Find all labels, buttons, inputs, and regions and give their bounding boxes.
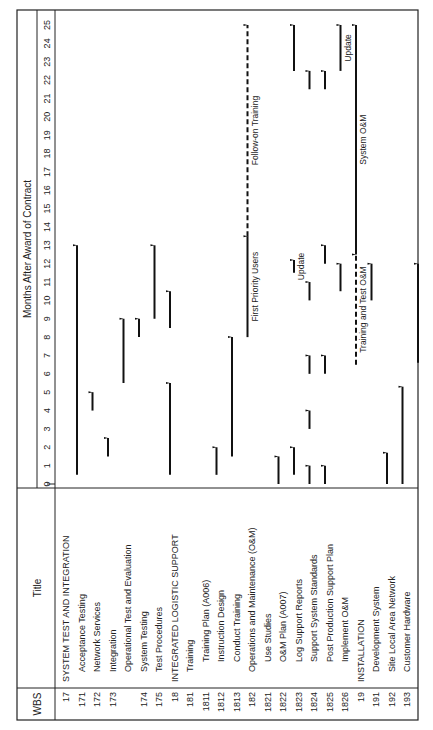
tick-label: 6 [42, 371, 52, 376]
row-wbs: 1823 [294, 692, 304, 712]
row-title: Training [185, 640, 195, 672]
tick-label: 21 [42, 93, 52, 103]
row-wbs: 18 [170, 692, 180, 702]
row-title: Training Plan (A006) [201, 580, 211, 662]
tick-label: 9 [42, 316, 52, 321]
bar-annotation: Update [296, 252, 306, 280]
task-bars: First Priority UsersFollow-on TrainingUp… [73, 24, 418, 484]
tick-label: 5 [42, 390, 52, 395]
row-title: Integration [108, 629, 118, 672]
row-title: Log Support Reports [294, 578, 304, 662]
row-title: Use Studies [263, 613, 273, 662]
tick-label: 22 [42, 75, 52, 85]
row-title: System Testing [139, 611, 149, 672]
task-rows: 17SYSTEM TEST AND INTEGRATION171Acceptan… [61, 527, 412, 712]
row-wbs: 173 [108, 692, 118, 707]
row-wbs: 1826 [340, 692, 350, 712]
tick-label: 16 [42, 185, 52, 195]
row-title: Network Services [92, 601, 102, 672]
row-title: Acceptance Testing [77, 594, 87, 672]
row-title: Conduct Training [232, 594, 242, 662]
tick-label: 2 [42, 445, 52, 450]
tick-label: 20 [42, 112, 52, 122]
tick-label: 23 [42, 57, 52, 67]
row-title: Site Local Area Network [387, 575, 397, 672]
tick-label: 3 [42, 426, 52, 431]
row-title: Operations and Maintenance (O&M) [247, 527, 257, 672]
bar-annotation: Update [343, 34, 353, 62]
row-title: Test Procedures [154, 606, 164, 672]
wbs-header: WBS [32, 692, 43, 715]
row-wbs: 1813 [232, 692, 242, 712]
row-title: INTEGRATED LOGISTIC SUPPORT [170, 534, 180, 682]
row-wbs: 171 [77, 692, 87, 707]
tick-label: 15 [42, 204, 52, 214]
tick-label: 17 [42, 167, 52, 177]
tick-label: 4 [42, 408, 52, 413]
row-title: SYSTEM TEST AND INTEGRATION [61, 535, 71, 682]
tick-label: 18 [42, 149, 52, 159]
row-wbs: 1821 [263, 692, 273, 712]
tick-label: 8 [42, 335, 52, 340]
axis-label: Months After Award of Contract [22, 180, 33, 318]
bar-annotation: Training and Test O&M [358, 266, 368, 352]
tick-label: 14 [42, 222, 52, 232]
row-wbs: 181 [185, 692, 195, 707]
tick-label: 7 [42, 353, 52, 358]
bar-annotation: Follow-on Training [250, 96, 260, 166]
row-wbs: 174 [139, 692, 149, 707]
row-wbs: 192 [387, 692, 397, 707]
gantt-chart: WBS Title Months After Award of Contract… [0, 0, 433, 730]
row-title: Instruction Design [216, 590, 226, 662]
row-wbs: 19 [356, 692, 366, 702]
row-wbs: 1824 [309, 692, 319, 712]
row-title: Customer Hardware [402, 591, 412, 672]
row-wbs: 175 [154, 692, 164, 707]
row-wbs: 1811 [201, 692, 211, 711]
row-wbs: 182 [247, 692, 257, 707]
tick-label: 10 [42, 295, 52, 305]
row-title: INSTALLATION [356, 619, 366, 682]
row-title: Operational Test and Evaluation [123, 545, 133, 672]
row-title: Development System [371, 586, 381, 672]
row-title: Implement O&M [340, 597, 350, 662]
row-title: O&M Plan (A007) [278, 591, 288, 662]
row-wbs: 1822 [278, 692, 288, 712]
tick-label: 13 [42, 240, 52, 250]
month-ticks: 0123456789101112131415161718192021222324… [42, 20, 55, 487]
tick-label: 19 [42, 130, 52, 140]
bar-annotation: System O&M [358, 115, 368, 165]
row-title: Support System Standards [309, 554, 319, 662]
tick-label: 25 [42, 20, 52, 30]
row-wbs: 191 [371, 692, 381, 707]
row-title: Post Production Support Plan [325, 544, 335, 662]
row-wbs: 1812 [216, 692, 226, 712]
tick-label: 12 [42, 259, 52, 269]
row-wbs: 17 [61, 692, 71, 702]
tick-label: 24 [42, 38, 52, 48]
bar-annotation: First Priority Users [250, 252, 260, 322]
tick-label: 11 [42, 277, 52, 286]
row-wbs: 172 [92, 692, 102, 707]
row-wbs: 193 [402, 692, 412, 707]
tick-label: 1 [42, 463, 52, 468]
row-wbs: 1825 [325, 692, 335, 712]
title-header: Title [32, 578, 43, 597]
